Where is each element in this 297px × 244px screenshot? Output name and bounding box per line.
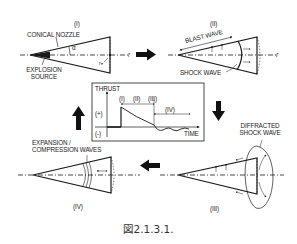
phase-1-label: (I) bbox=[119, 95, 125, 102]
explosion-source-label: EXPLOSION SOURCE bbox=[22, 66, 66, 80]
cycle-arrow-up bbox=[72, 106, 85, 130]
diffracted-shock-label: DIFFRACTED SHOCK WAVE bbox=[230, 122, 290, 136]
cycle-arrow-right bbox=[136, 49, 156, 61]
time-axis-label: TIME bbox=[184, 130, 199, 137]
panel-3-numeral: (III) bbox=[210, 205, 219, 212]
panel-4-numeral: (IV) bbox=[73, 203, 83, 210]
diffracted-leader bbox=[260, 140, 262, 147]
r-axis-symbol-1: r bbox=[128, 51, 130, 58]
diffracted-front bbox=[245, 146, 273, 208]
angle-arc bbox=[69, 47, 70, 55]
r-axis-symbol-2: r bbox=[276, 51, 278, 58]
plus-label: (+) bbox=[95, 110, 103, 117]
shock-front bbox=[237, 41, 242, 70]
expansion-compression-label: EXPANSION / COMPRESSION WAVES bbox=[32, 139, 101, 153]
panel-3-diffracted bbox=[160, 140, 284, 208]
phase-2-label: (II) bbox=[133, 95, 140, 102]
thrust-axis-label: THRUST bbox=[95, 85, 120, 92]
figure-caption: 図2.1.3.1. bbox=[0, 221, 297, 236]
panel-1-numeral: (I) bbox=[74, 20, 80, 27]
panel-4-expansion bbox=[18, 155, 140, 193]
nozzle-leader bbox=[56, 37, 58, 47]
minus-label: (-) bbox=[95, 130, 101, 137]
radius-symbol: rₙ bbox=[99, 60, 102, 67]
shock-wave-label: SHOCK WAVE bbox=[180, 69, 221, 76]
phase-4-label: (IV) bbox=[165, 106, 175, 113]
alpha-symbol: α bbox=[72, 44, 76, 51]
phase-3-label: (III) bbox=[148, 95, 157, 102]
radius-leader bbox=[104, 58, 108, 62]
panel-2-numeral: (II) bbox=[210, 20, 217, 27]
cycle-arrow-left bbox=[140, 160, 160, 172]
conical-nozzle-label: CONICAL NOZZLE bbox=[27, 31, 80, 38]
cycle-arrow-down bbox=[212, 101, 225, 121]
